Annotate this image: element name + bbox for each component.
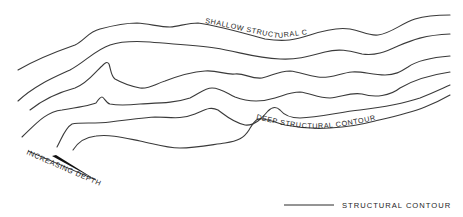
contour-line-2	[18, 34, 450, 101]
deep-contour-label: DEEP STRUCTURAL CONTOUR	[256, 112, 377, 130]
contour-line-5	[57, 85, 450, 147]
shallow-contour-label: SHALLOW STRUCTURAL CONTOUR	[0, 0, 308, 40]
increasing-depth-label: INCREASING DEPTH	[25, 148, 103, 188]
legend-label-structural-contour: STRUCTURAL CONTOUR	[342, 201, 451, 210]
increasing-depth-indicator: INCREASING DEPTH	[25, 148, 103, 188]
legend: STRUCTURAL CONTOUR	[284, 201, 451, 210]
contour-line-3	[30, 56, 450, 110]
contour-line-deep	[73, 95, 450, 150]
structural-contour-diagram: SHALLOW STRUCTURAL CONTOUR DEEP STRUCTUR…	[0, 0, 463, 217]
